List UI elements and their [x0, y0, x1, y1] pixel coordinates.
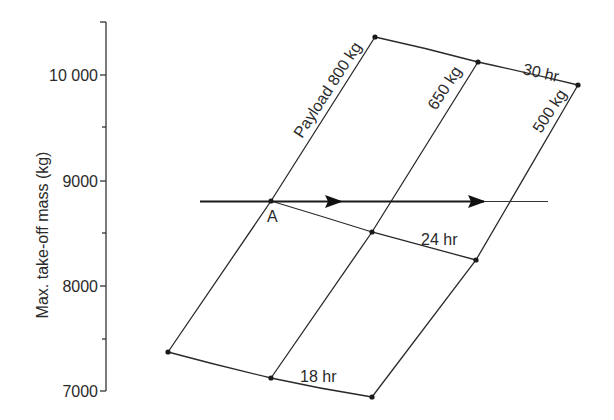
- y-tick-8000: 8000: [62, 278, 98, 295]
- payload-500-line: [372, 85, 578, 397]
- endurance-lines: [168, 37, 578, 397]
- constant-mass-arrow: [200, 195, 548, 208]
- label-18hr: 18 hr: [300, 368, 337, 385]
- label-24hr: 24 hr: [421, 231, 458, 248]
- y-tick-7000: 7000: [62, 383, 98, 400]
- label-payload-800: Payload 800 kg: [290, 39, 364, 141]
- y-axis: [100, 22, 106, 391]
- y-axis-label: Max. take-off mass (kg): [34, 152, 51, 319]
- payload-650-line: [271, 62, 478, 378]
- carpet-plot: 10 000 9000 8000 7000 Max. take-off mass…: [0, 0, 614, 420]
- endurance-18hr-line: [168, 352, 372, 397]
- label-30hr: 30 hr: [521, 60, 561, 85]
- y-tick-9000: 9000: [62, 173, 98, 190]
- label-point-a: A: [267, 208, 278, 225]
- payload-800-line: [168, 37, 375, 352]
- payload-lines: [168, 37, 578, 397]
- node-dots: [165, 34, 580, 399]
- y-tick-10000: 10 000: [49, 67, 98, 84]
- label-payload-650: 650 kg: [424, 63, 464, 113]
